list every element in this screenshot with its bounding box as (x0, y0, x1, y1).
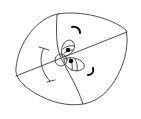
lower-pupil (69, 59, 74, 64)
drawing-canvas (0, 0, 141, 119)
upper-crescent (72, 27, 80, 33)
egg-figure (0, 0, 141, 119)
left-ibeam-arc (39, 47, 55, 82)
lower-crescent (88, 68, 93, 75)
upper-pupil (66, 48, 71, 53)
